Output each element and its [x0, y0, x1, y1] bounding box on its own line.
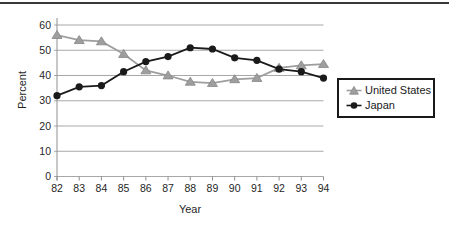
data-marker-circle-japan-82 [53, 92, 60, 99]
data-marker-circle-japan-86 [142, 58, 149, 65]
x-tick-label-83: 83 [73, 182, 85, 194]
y-tick-label-60: 60 [39, 19, 51, 31]
x-tick-label-93: 93 [295, 182, 307, 194]
legend: United States Japan [337, 78, 435, 118]
data-marker-circle-japan-93 [298, 68, 305, 75]
data-marker-circle-japan-83 [76, 83, 83, 90]
y-tick-label-50: 50 [39, 44, 51, 56]
x-tick-label-90: 90 [229, 182, 241, 194]
data-marker-circle-japan-94 [320, 74, 327, 81]
legend-label-japan: Japan [365, 100, 395, 111]
x-tick-label-86: 86 [140, 182, 152, 194]
x-tick-label-92: 92 [273, 182, 285, 194]
legend-item-united-states: United States [346, 84, 431, 97]
y-tick-label-40: 40 [39, 69, 51, 81]
data-marker-circle-japan-84 [98, 82, 105, 89]
x-tick-label-94: 94 [318, 182, 330, 194]
y-tick-label-10: 10 [39, 145, 51, 157]
x-tick-label-88: 88 [184, 182, 196, 194]
x-tick-label-85: 85 [118, 182, 130, 194]
data-marker-circle-japan-87 [164, 53, 171, 60]
legend-label-united-states: United States [365, 85, 431, 96]
y-tick-label-20: 20 [39, 120, 51, 132]
triangle-line-marker-icon [346, 85, 362, 96]
x-tick-label-82: 82 [51, 182, 63, 194]
x-tick-label-84: 84 [96, 182, 108, 194]
circle-line-marker-icon [346, 100, 362, 111]
x-axis-title: Year [179, 203, 201, 215]
data-marker-circle-japan-85 [120, 68, 127, 75]
data-marker-circle-japan-91 [253, 57, 260, 64]
market-share-line-chart-figure: 010203040506082838485868788899091929394 … [0, 0, 449, 228]
data-marker-circle-japan-88 [187, 44, 194, 51]
y-tick-label-30: 30 [39, 94, 51, 106]
data-marker-circle-japan-89 [209, 45, 216, 52]
x-tick-label-91: 91 [251, 182, 263, 194]
legend-item-japan: Japan [346, 99, 431, 112]
data-marker-circle-japan-90 [231, 54, 238, 61]
x-tick-label-89: 89 [207, 182, 219, 194]
data-marker-circle-japan-92 [275, 66, 282, 73]
y-axis-title: Percent [16, 71, 28, 109]
data-marker-triangle-united-states-82 [52, 31, 62, 39]
y-tick-label-0: 0 [45, 170, 51, 182]
x-tick-label-87: 87 [162, 182, 174, 194]
